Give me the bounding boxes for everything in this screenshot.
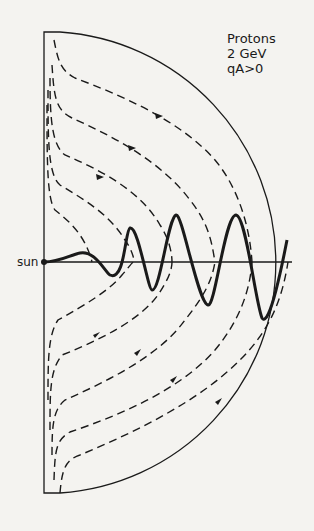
legend-polarity: qA>0 (227, 61, 276, 76)
sun-label: sun (17, 255, 38, 270)
legend-energy: 2 GeV (227, 46, 276, 61)
sun-marker (41, 259, 47, 265)
upper-drift-lines (47, 40, 252, 262)
legend-particle: Protons (227, 31, 276, 46)
heliosphere-drift-diagram (0, 0, 314, 531)
current-sheet-line (44, 215, 287, 319)
legend: Protons 2 GeV qA>0 (227, 31, 276, 76)
